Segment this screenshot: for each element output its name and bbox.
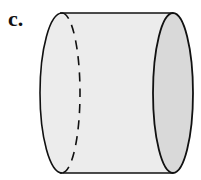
cylinder-diagram xyxy=(0,0,201,180)
right-end-face xyxy=(153,13,193,173)
